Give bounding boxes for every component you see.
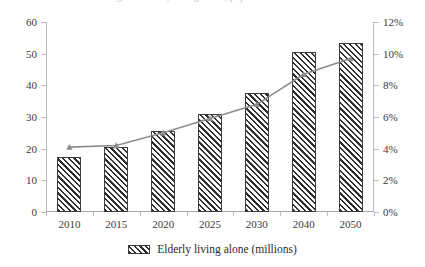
y-axis-right-tick-label: 12%	[383, 17, 403, 28]
y-axis-left-tick-label: 60	[26, 17, 37, 28]
plot-area: 0102030405060 0%2%4%6%8%10%12% 201020152…	[46, 22, 374, 212]
x-axis-tick-label: 2030	[246, 219, 268, 230]
y-axis-right-tick-label: 2%	[383, 175, 398, 186]
x-axis-tick-label: 2020	[152, 219, 174, 230]
x-axis-tick	[46, 212, 47, 216]
y-axis-left-tick-label: 30	[26, 112, 37, 123]
line-series	[46, 22, 374, 212]
y-axis-left-tick-label: 0	[32, 207, 38, 218]
y-axis-left-tick-label: 20	[26, 143, 37, 154]
y-axis-left-tick-label: 50	[26, 48, 37, 59]
y-axis-right-tick	[374, 149, 379, 150]
line-path	[69, 58, 350, 147]
x-axis-tick-label: 2040	[293, 219, 315, 230]
y-axis-right-tick-label: 10%	[383, 48, 403, 59]
x-axis-tick	[140, 212, 141, 216]
clipped-title-sliver: Figure: Elderly living alone, population…	[0, 0, 425, 2]
x-axis-tick	[187, 212, 188, 216]
hatch-swatch-icon	[128, 245, 150, 254]
x-axis-tick	[327, 212, 328, 216]
y-axis-left-tick-label: 10	[26, 175, 37, 186]
legend-item-label: Elderly living alone (millions)	[157, 243, 297, 255]
y-axis-right-tick	[374, 117, 379, 118]
x-axis-tick	[280, 212, 281, 216]
y-axis-right-tick	[374, 22, 379, 23]
y-axis-right-tick-label: 8%	[383, 80, 398, 91]
chart-container: Figure: Elderly living alone, population…	[0, 0, 425, 267]
line-marker-triangle	[347, 55, 353, 61]
y-axis-right-tick	[374, 54, 379, 55]
x-axis-tick	[233, 212, 234, 216]
x-axis-tick-label: 2050	[340, 219, 362, 230]
y-axis-right-tick-label: 4%	[383, 143, 398, 154]
y-axis-left-tick-label: 40	[26, 80, 37, 91]
y-axis-right-tick	[374, 85, 379, 86]
y-axis-right-tick-label: 0%	[383, 207, 398, 218]
x-axis-tick-label: 2010	[58, 219, 80, 230]
x-axis-tick-label: 2025	[199, 219, 221, 230]
x-axis-tick	[93, 212, 94, 216]
x-axis-tick-label: 2015	[105, 219, 127, 230]
y-axis-right-tick-label: 6%	[383, 112, 398, 123]
chart-legend: Elderly living alone (millions)	[0, 243, 425, 255]
x-axis-tick	[374, 212, 375, 216]
y-axis-right-tick	[374, 180, 379, 181]
